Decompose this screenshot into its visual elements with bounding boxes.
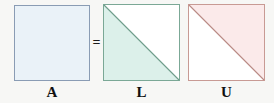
lu-decomposition-figure: = A L U [0, 0, 274, 103]
lower-triangle-shading [103, 4, 180, 81]
equals-sign: = [91, 35, 102, 51]
matrix-l [103, 4, 180, 81]
matrix-a [14, 5, 90, 81]
matrix-u [188, 4, 265, 81]
upper-triangle-shading [188, 4, 265, 81]
matrix-u-label: U [188, 83, 265, 101]
matrix-l-label: L [103, 83, 180, 101]
matrix-a-square [14, 5, 90, 81]
matrix-a-label: A [14, 83, 90, 101]
